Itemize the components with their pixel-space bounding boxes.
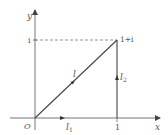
path-l — [35, 40, 117, 118]
x-axis-label: x — [155, 122, 160, 132]
path-l2-arrow-icon — [115, 75, 119, 80]
y-tick-i-label: i — [28, 36, 31, 45]
complex-path-diagram: y x O i 1 1+i l l1 l2 — [0, 0, 168, 135]
origin-label: O — [24, 122, 31, 131]
x-tick-1-label: 1 — [115, 123, 120, 132]
path-l1-arrow-icon — [60, 116, 65, 120]
y-axis-label: y — [26, 11, 33, 21]
path-l2-label: l2 — [120, 72, 127, 83]
point-1-plus-i-label: 1+i — [120, 35, 134, 44]
path-l1-label: l1 — [66, 122, 73, 133]
path-l-label: l — [73, 69, 76, 79]
